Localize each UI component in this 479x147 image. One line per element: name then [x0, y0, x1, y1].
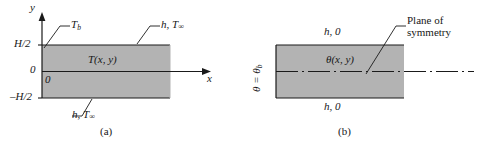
convection-bottom-label-b: h, 0	[324, 101, 341, 113]
convection-top-symbol: h, T	[161, 18, 178, 30]
convection-bottom-label: h, T∞	[72, 109, 95, 121]
y-axis-label: y	[30, 2, 35, 14]
temperature-field-label: T(x, y)	[88, 54, 117, 66]
y-tick-label-upper: H/2	[14, 38, 31, 50]
convection-bottom-subscript: ∞	[89, 112, 95, 121]
plane-of-symmetry-label-line1: Plane of	[407, 14, 451, 26]
base-excess-temperature-symbol: θ = θ	[250, 68, 262, 92]
base-excess-temperature-subscript: b	[255, 65, 264, 69]
convection-top-label-b: h, 0	[324, 26, 341, 38]
y-tick-label-middle: 0	[30, 64, 36, 76]
panel-a: y x H/2 0 –H/2 0 Tb h, T∞ h, T∞ [data-na…	[0, 0, 236, 147]
panel-b: θ = θb h, 0 h, 0 θ(x, y) Plane of symmet…	[236, 0, 479, 147]
figure-container: y x H/2 0 –H/2 0 Tb h, T∞ h, T∞ [data-na…	[0, 0, 479, 147]
convection-top-leader-line	[137, 26, 160, 44]
base-temperature-label: Tb	[71, 19, 81, 31]
excess-temperature-field-label: θ(x, y)	[326, 54, 354, 66]
convection-bottom-symbol-b: h, 0	[324, 100, 341, 112]
y-axis-arrowhead	[39, 12, 46, 21]
plane-of-symmetry-label: Plane of symmetry	[407, 14, 451, 39]
plane-of-symmetry-label-line2: symmetry	[407, 26, 451, 38]
y-tick-label-lower: –H/2	[10, 91, 32, 103]
origin-label: 0	[45, 74, 51, 86]
convection-top-label: h, T∞	[161, 19, 184, 31]
base-excess-temperature-label: θ = θb	[250, 65, 262, 92]
base-temperature-subscript: b	[77, 23, 81, 32]
convection-bottom-symbol: h, T	[72, 108, 89, 120]
panel-b-caption: (b)	[338, 125, 351, 137]
panel-a-caption: (a)	[100, 125, 112, 137]
convection-top-symbol-b: h, 0	[324, 25, 341, 37]
x-axis-label: x	[207, 73, 212, 85]
convection-top-subscript: ∞	[178, 22, 184, 31]
